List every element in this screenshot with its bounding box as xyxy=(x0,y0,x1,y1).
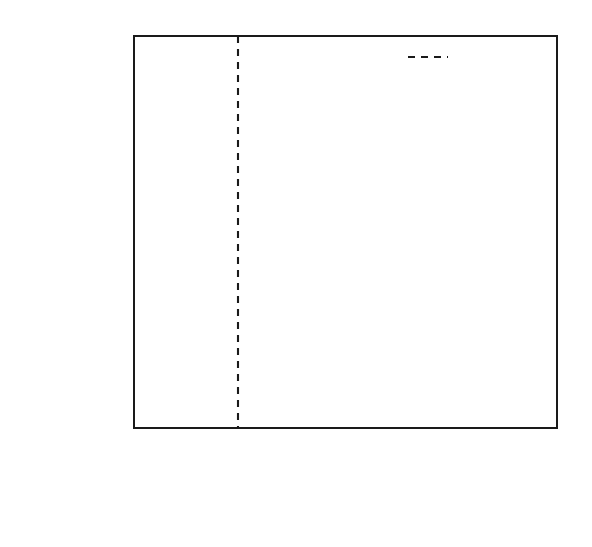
convergence-plot xyxy=(0,0,592,547)
plot-background xyxy=(0,0,592,547)
figure-root xyxy=(0,0,592,547)
